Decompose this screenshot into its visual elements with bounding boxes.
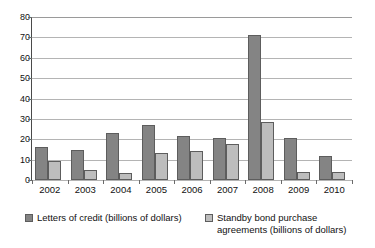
legend-swatch-icon: [25, 214, 33, 222]
bar-group: [103, 17, 139, 180]
bar-group: [281, 17, 317, 180]
y-tick-label: 30: [2, 114, 30, 123]
bar: [248, 35, 261, 180]
x-tick-label: 2009: [281, 184, 317, 196]
x-tick-label: 2010: [316, 184, 352, 196]
bar: [332, 172, 345, 180]
y-axis: 01020304050607080: [0, 0, 30, 200]
bar: [297, 172, 310, 180]
bar: [177, 136, 190, 180]
plot-wrapper: 01020304050607080 2002200320042005200620…: [0, 0, 375, 200]
legend-entry[interactable]: Letters of credit (billions of dollars): [25, 212, 182, 224]
y-tick-label: 20: [2, 135, 30, 144]
chart-legend: Letters of credit (billions of dollars)S…: [0, 204, 375, 248]
legend-swatch-icon: [205, 214, 213, 222]
x-tick-label: 2008: [245, 184, 281, 196]
bar: [155, 153, 168, 180]
x-tick-label: 2007: [210, 184, 246, 196]
bar-group: [68, 17, 104, 180]
bar: [261, 122, 274, 180]
x-tick-label: 2004: [103, 184, 139, 196]
bar-group: [316, 17, 352, 180]
bar-group: [174, 17, 210, 180]
y-tick-label: 10: [2, 155, 30, 164]
legend-label: Letters of credit (billions of dollars): [37, 212, 182, 224]
legend-entry[interactable]: Standby bond purchase agreements (billio…: [205, 212, 346, 236]
bar-group: [32, 17, 68, 180]
bar-chart: 01020304050607080 2002200320042005200620…: [0, 0, 375, 248]
bar: [84, 170, 97, 180]
x-tick-label: 2005: [139, 184, 175, 196]
y-tick-label: 0: [2, 176, 30, 185]
bar-group: [210, 17, 246, 180]
bar: [106, 133, 119, 180]
y-tick-label: 80: [2, 13, 30, 22]
plot-area: [32, 17, 352, 180]
bar: [71, 150, 84, 180]
x-tick-label: 2002: [32, 184, 68, 196]
bar-group: [245, 17, 281, 180]
y-tick-label: 40: [2, 94, 30, 103]
bar: [142, 125, 155, 180]
x-tick-label: 2003: [68, 184, 104, 196]
y-tick-label: 50: [2, 74, 30, 83]
bar: [284, 138, 297, 180]
y-tick-label: 70: [2, 33, 30, 42]
bar: [48, 161, 61, 180]
legend-label: Standby bond purchase agreements (billio…: [217, 212, 346, 236]
bar: [190, 151, 203, 180]
y-tick-label: 60: [2, 53, 30, 62]
bar: [213, 138, 226, 180]
bar: [35, 147, 48, 180]
bar: [226, 144, 239, 180]
x-tick-label: 2006: [174, 184, 210, 196]
bar: [319, 156, 332, 180]
x-tick-mark: [352, 180, 353, 184]
bar: [119, 173, 132, 180]
x-axis: 200220032004200520062007200820092010: [32, 184, 352, 198]
bar-group: [139, 17, 175, 180]
gridline: [32, 180, 352, 181]
